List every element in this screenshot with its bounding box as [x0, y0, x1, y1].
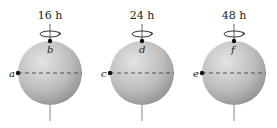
rotation-arrow-icon	[132, 31, 153, 37]
rotation-arrow-icon	[40, 31, 61, 37]
equator-point-label: e	[193, 68, 199, 79]
sphere-group-3: 48 h e f	[193, 9, 266, 121]
equator-point	[16, 71, 20, 75]
period-label: 16 h	[38, 9, 63, 22]
rotation-arrow-icon	[224, 31, 245, 37]
rotating-spheres-diagram: 16 h a b 24 h c d 48 h	[0, 0, 277, 128]
equator-point	[200, 71, 204, 75]
pole-point-label: d	[139, 44, 145, 55]
equator-point	[108, 71, 112, 75]
sphere-group-1: 16 h a b	[9, 9, 82, 121]
pole-point	[140, 39, 144, 43]
pole-point	[48, 39, 52, 43]
sphere-group-2: 24 h c d	[101, 9, 174, 121]
pole-point-label: b	[47, 44, 53, 55]
equator-point-label: c	[101, 68, 107, 79]
equator-point-label: a	[9, 68, 15, 79]
pole-point	[232, 39, 236, 43]
period-label: 48 h	[222, 9, 247, 22]
period-label: 24 h	[130, 9, 155, 22]
